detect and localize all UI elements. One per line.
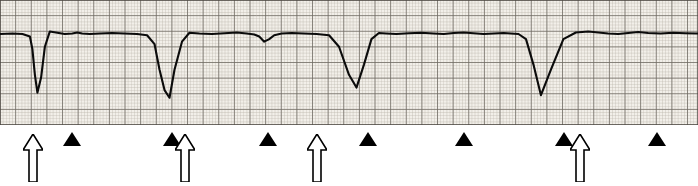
open-arrow-3	[307, 134, 327, 182]
solid-arrow-5	[455, 132, 473, 146]
open-arrow-1	[23, 134, 43, 182]
solid-arrow-1	[63, 132, 81, 146]
solid-arrow-4	[359, 132, 377, 146]
ecg-trace	[0, 0, 698, 125]
annotation-band	[0, 125, 698, 186]
ecg-strip	[0, 0, 698, 125]
open-arrow-4	[570, 134, 590, 182]
solid-arrow-3	[259, 132, 277, 146]
ecg-figure	[0, 0, 698, 186]
solid-arrow-7	[648, 132, 666, 146]
open-arrow-2	[175, 134, 195, 182]
